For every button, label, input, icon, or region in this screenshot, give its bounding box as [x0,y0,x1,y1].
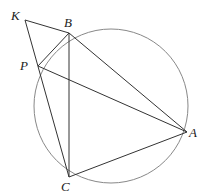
label-A: A [188,125,197,140]
segment-KC [25,20,69,177]
label-P: P [19,58,28,73]
label-B: B [64,15,72,30]
label-K: K [10,8,21,23]
label-C: C [61,179,70,194]
segments [25,20,187,177]
segment-PA [38,66,187,132]
circumcircle [34,29,188,183]
segment-KB [25,20,69,33]
segment-BA [69,33,187,132]
segment-CA [69,132,187,177]
segment-BP [38,33,69,66]
geometry-diagram: K B P A C [0,0,208,195]
